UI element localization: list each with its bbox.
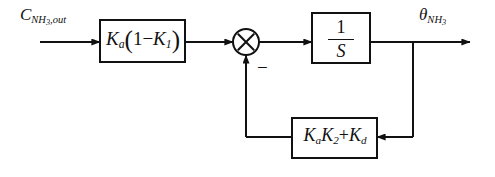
block-diagram: CNH3,out θNH3 Ka(1−K1) 1 S − KaK2+Kd: [0, 0, 495, 177]
gain-input-block-shape: [100, 20, 185, 62]
diagram-wire-layer: [0, 0, 495, 177]
feedback-gain-block-shape: [292, 118, 377, 158]
integrator-block-shape: [312, 13, 370, 63]
